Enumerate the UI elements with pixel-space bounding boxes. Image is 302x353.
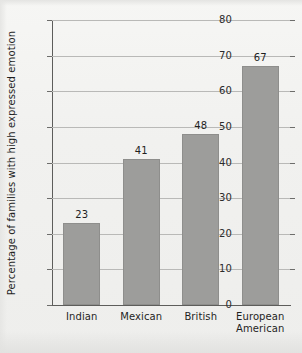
y-tick-mark bbox=[47, 269, 52, 270]
y-tick-mark bbox=[47, 91, 52, 92]
y-tick-mark bbox=[47, 56, 52, 57]
bar-value-label: 23 bbox=[62, 209, 102, 220]
y-tick-mark-right bbox=[290, 56, 295, 57]
y-axis-title: Percentage of families with high express… bbox=[6, 30, 17, 294]
y-tick-mark bbox=[47, 20, 52, 21]
gridline bbox=[52, 20, 290, 21]
bar-value-label: 48 bbox=[181, 120, 221, 131]
y-tick-mark bbox=[47, 198, 52, 199]
y-tick-mark bbox=[47, 234, 52, 235]
paper-edge-top bbox=[0, 0, 302, 6]
bar-value-label: 41 bbox=[121, 145, 161, 156]
y-tick-mark bbox=[47, 163, 52, 164]
y-tick-mark-right bbox=[290, 20, 295, 21]
category-label: EuropeanAmerican bbox=[222, 311, 298, 335]
plot-area: 01020304050607080 23414867 IndianMexican… bbox=[52, 20, 290, 305]
y-tick-label: 70 bbox=[198, 50, 232, 61]
y-tick-label: 80 bbox=[198, 14, 232, 25]
bar-value-label: 67 bbox=[240, 52, 280, 63]
y-tick-mark-right bbox=[290, 91, 295, 92]
y-tick-mark-right bbox=[290, 163, 295, 164]
bar-chart-figure: 01020304050607080 23414867 IndianMexican… bbox=[0, 0, 302, 353]
y-tick-mark bbox=[47, 305, 52, 306]
y-tick-mark-right bbox=[290, 127, 295, 128]
y-tick-mark-right bbox=[290, 198, 295, 199]
bar bbox=[63, 223, 100, 305]
x-axis-line bbox=[52, 305, 291, 306]
y-tick-mark-right bbox=[290, 269, 295, 270]
y-tick-mark-right bbox=[290, 234, 295, 235]
bar bbox=[123, 159, 160, 305]
bar bbox=[182, 134, 219, 305]
y-tick-mark bbox=[47, 127, 52, 128]
y-tick-label: 60 bbox=[198, 85, 232, 96]
bar bbox=[242, 66, 279, 305]
